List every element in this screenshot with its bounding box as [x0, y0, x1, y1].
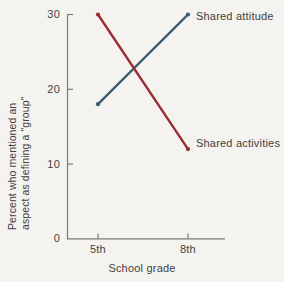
line-chart: 30 20 10 0 5th 8th Percent who mentioned… — [0, 0, 284, 282]
series-point-shared-activities-5th — [96, 12, 100, 16]
x-tick-label-8th: 8th — [173, 243, 203, 255]
series-point-shared-attitude-8th — [186, 12, 190, 16]
y-tick-label-30: 30 — [34, 8, 60, 20]
series-line-shared-activities — [98, 15, 188, 150]
y-axis-title-line-2: aspect as defining a "group" — [19, 97, 31, 230]
series-line-shared-attitude — [98, 15, 188, 105]
x-tick-label-5th: 5th — [83, 243, 113, 255]
y-axis-title-line-1: Percent who mentioned an — [6, 103, 18, 230]
series-label-shared-activities: Shared activities — [196, 137, 280, 149]
series-point-shared-attitude-5th — [96, 102, 100, 106]
x-axis-title: School grade — [0, 262, 284, 274]
y-tick-label-0: 0 — [34, 232, 60, 244]
series-label-shared-attitude: Shared attitude — [196, 10, 274, 22]
y-axis-title: Percent who mentioned an aspect as defin… — [0, 40, 40, 230]
series-point-shared-activities-8th — [186, 147, 190, 151]
